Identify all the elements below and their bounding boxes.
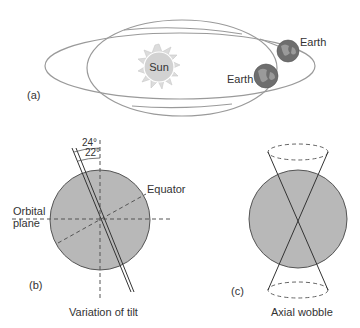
- panel-b-caption: Variation of tilt: [69, 306, 138, 318]
- inner-orbit-ellipse: [87, 20, 277, 116]
- orbital-plane-label-1: Orbital: [13, 205, 45, 217]
- equator-label: Equator: [147, 183, 186, 195]
- wobble-cone-bottom: [268, 282, 328, 298]
- panel-c-tag: (c): [231, 285, 244, 297]
- sun-label: Sun: [149, 61, 169, 73]
- planet-circle-c: [249, 170, 347, 268]
- wobble-cone-top: [268, 144, 328, 160]
- orbit-arrow-bottom: [132, 104, 232, 108]
- earth-label-1: Earth: [300, 36, 326, 48]
- orbital-plane-label-2: plane: [13, 217, 40, 229]
- outer-orbit-ellipse: [45, 33, 315, 99]
- panel-c-caption: Axial wobble: [271, 306, 333, 318]
- panel-a-tag: (a): [27, 89, 40, 101]
- earth-label-2: Earth: [227, 73, 253, 85]
- sun-icon: Sun: [138, 44, 180, 89]
- panel-c-wobble: (c) Axial wobble: [231, 144, 347, 318]
- earth-icon-2: [254, 64, 278, 88]
- milankovitch-diagram: Sun Earth Earth (a) 24° 2: [0, 0, 360, 328]
- panel-b-tag: (b): [29, 279, 42, 291]
- earth-icon-1: [277, 40, 299, 62]
- angle-22-label: 22°: [85, 147, 100, 158]
- panel-b-tilt: 24° 22° Equator Orbital plane (b) Variat…: [12, 137, 186, 318]
- panel-a-eccentricity: Sun Earth Earth (a): [27, 20, 326, 116]
